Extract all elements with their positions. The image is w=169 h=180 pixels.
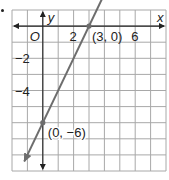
- point-label-0-neg6: (0, −6): [48, 125, 86, 140]
- x-tick-label: 2: [70, 29, 77, 44]
- y-tick-label: −4: [15, 84, 30, 99]
- point-label-3-0: (3, 0): [92, 29, 122, 44]
- x-axis-label: x: [156, 10, 164, 25]
- y-tick-label: −2: [15, 51, 30, 66]
- x-tick-label: 6: [131, 29, 138, 44]
- data-point: [40, 120, 45, 125]
- origin-label: O: [30, 29, 40, 44]
- data-point: [86, 24, 91, 29]
- coordinate-plane: xyO26−2−4(3, 0)(0, −6): [0, 0, 169, 180]
- y-axis-label: y: [47, 10, 56, 25]
